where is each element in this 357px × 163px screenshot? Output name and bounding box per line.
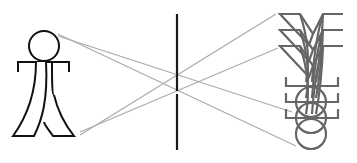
object-stick-figure [13,31,74,136]
figure-head [29,31,59,61]
pinhole-optics-diagram [0,0,357,163]
figure-right-leg [44,62,74,136]
figure-left-leg [13,62,46,136]
light-ray [80,48,278,132]
inverted-image-figures [280,14,343,149]
diagram-canvas [0,0,357,163]
light-ray [58,36,292,112]
